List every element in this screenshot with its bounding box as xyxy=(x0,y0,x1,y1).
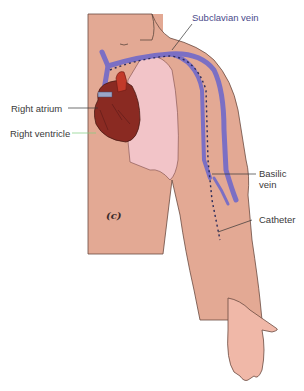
basilic-label-line1: Basilic xyxy=(259,168,286,179)
anatomy-figure xyxy=(0,0,304,391)
catheter-label: Catheter xyxy=(259,214,295,225)
right-atrium-label: Right atrium xyxy=(11,103,62,114)
panel-label: (c) xyxy=(106,210,122,221)
subclavian-vein-label: Subclavian vein xyxy=(192,12,259,23)
basilic-label-line2: vein xyxy=(259,179,276,190)
right-ventricle-label: Right ventricle xyxy=(10,128,70,139)
